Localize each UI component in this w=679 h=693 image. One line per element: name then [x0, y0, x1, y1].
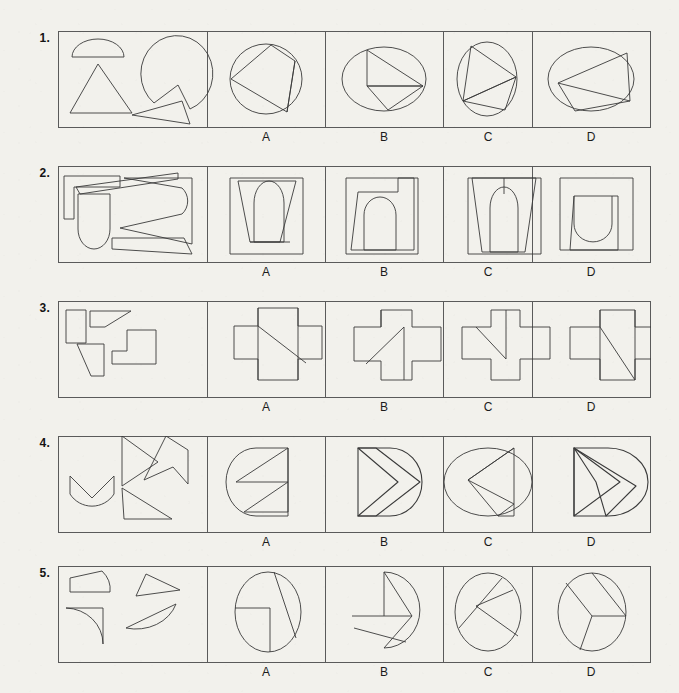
row-5-svg	[58, 566, 651, 663]
row-3-pieces	[66, 310, 156, 376]
row-3-svg	[58, 301, 651, 398]
row-4-labels: A B C D	[58, 535, 651, 555]
row-5-option-c	[455, 573, 521, 651]
option-label-d: D	[532, 265, 650, 279]
row-5-option-d	[558, 573, 626, 651]
option-label-a: A	[207, 130, 325, 144]
option-label-b: B	[325, 130, 443, 144]
option-label-c: C	[429, 665, 547, 679]
row-2-option-b	[346, 178, 418, 254]
row-1-labels: A B C D	[58, 130, 651, 150]
row-4-option-c	[444, 448, 532, 516]
option-label-d: D	[532, 535, 650, 549]
option-label-c: C	[429, 535, 547, 549]
option-label-d: D	[532, 665, 650, 679]
row-3-option-b	[354, 310, 441, 380]
row-4-pieces	[70, 436, 188, 519]
option-label-d: D	[532, 400, 650, 414]
row-2-option-a	[230, 178, 303, 254]
row-4-svg	[58, 436, 651, 533]
row-1-option-a	[230, 44, 302, 114]
row-5-option-b	[352, 572, 420, 648]
row-1-pieces	[70, 36, 213, 124]
option-label-a: A	[207, 400, 325, 414]
row-3-option-a	[234, 308, 322, 380]
row-4-option-a	[226, 448, 288, 516]
row-2-pieces	[64, 173, 192, 254]
row-1-option-d	[548, 47, 634, 111]
option-label-b: B	[325, 265, 443, 279]
row-3-option-c	[462, 310, 550, 380]
option-label-c: C	[429, 265, 547, 279]
option-label-b: B	[325, 535, 443, 549]
option-label-d: D	[532, 130, 650, 144]
row-2-option-c	[468, 178, 541, 254]
question-grid-3	[58, 301, 651, 398]
option-label-a: A	[207, 265, 325, 279]
row-1-option-b	[342, 47, 426, 111]
worksheet-page: 1.	[0, 0, 679, 693]
option-label-c: C	[429, 400, 547, 414]
question-number-5: 5.	[22, 566, 50, 580]
question-number-4: 4.	[22, 436, 50, 450]
row-2-labels: A B C D	[58, 265, 651, 285]
row-2-svg	[58, 166, 651, 263]
row-5-option-a	[235, 572, 301, 652]
question-number-3: 3.	[22, 301, 50, 315]
question-grid-5	[58, 566, 651, 663]
option-label-c: C	[429, 130, 547, 144]
question-grid-4	[58, 436, 651, 533]
row-3-option-d	[570, 310, 651, 380]
question-grid-1	[58, 31, 651, 128]
question-grid-2	[58, 166, 651, 263]
row-1-option-c	[457, 42, 517, 116]
row-4-option-d	[574, 448, 648, 516]
option-label-a: A	[207, 665, 325, 679]
row-1-svg	[58, 31, 651, 128]
row-5-pieces	[66, 571, 180, 644]
question-number-2: 2.	[22, 166, 50, 180]
row-5-labels: A B C D	[58, 665, 651, 685]
row-4-option-b	[358, 448, 422, 516]
option-label-b: B	[325, 665, 443, 679]
option-label-a: A	[207, 535, 325, 549]
row-2-option-d	[560, 178, 633, 250]
row-3-labels: A B C D	[58, 400, 651, 420]
option-label-b: B	[325, 400, 443, 414]
question-number-1: 1.	[22, 31, 50, 45]
